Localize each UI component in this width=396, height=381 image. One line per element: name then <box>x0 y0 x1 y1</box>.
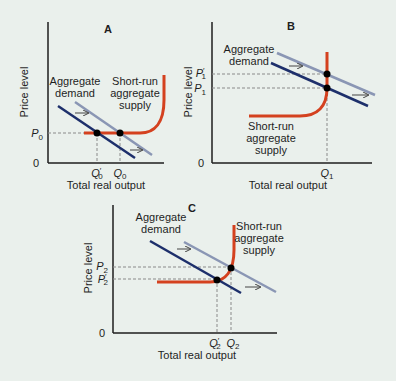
panel-c-equilibrium-new <box>214 277 221 284</box>
panel-b-q1-label: Q1 <box>320 167 334 181</box>
panel-c: C Price level Total real output 0 Aggreg… <box>82 202 284 361</box>
panel-a-ad-label-line2: demand <box>55 87 95 99</box>
panel-c-sras-label-line2: aggregate <box>234 232 284 244</box>
panel-a-sras-label-line3: supply <box>119 99 151 111</box>
panel-c-sras-label-line1: Short-run <box>236 220 282 232</box>
panel-b-sras-label-line2: aggregate <box>246 132 296 144</box>
panel-c-ad-label-line1: Aggregate <box>136 211 187 223</box>
panel-a-sras-label-line1: Short-run <box>112 75 158 87</box>
aggregate-demand-supply-diagram: A Price level Total real output 0 Aggreg… <box>0 0 396 381</box>
panel-b-p1-prime-label: P′1 <box>196 66 207 81</box>
panel-c-ad-label-line2: demand <box>141 223 181 235</box>
panel-b-x-axis-label: Total real output <box>249 179 327 191</box>
panel-a: A Price level Total real output 0 Aggreg… <box>18 22 164 191</box>
panel-b-equilibrium-original <box>324 71 331 78</box>
panel-a-title: A <box>104 23 112 35</box>
panel-c-origin-label: 0 <box>99 327 105 339</box>
panel-c-sras-label-line3: supply <box>243 244 275 256</box>
panel-a-q0-prime-label: Q′0 <box>91 166 103 181</box>
panel-b-p1-label: P1 <box>194 82 206 97</box>
panel-a-ad-label-line1: Aggregate <box>50 75 101 87</box>
panel-a-sras-label-line2: aggregate <box>110 87 160 99</box>
panel-a-equilibrium-original <box>117 130 124 137</box>
panel-b-title: B <box>287 20 295 32</box>
panel-a-p0-label: P0 <box>31 127 43 142</box>
panel-c-title: C <box>188 202 196 214</box>
panel-c-y-axis-label: Price level <box>82 243 94 294</box>
panel-b-equilibrium-new <box>324 85 331 92</box>
panel-c-q2-label: Q2 <box>226 337 240 351</box>
panel-b-ad-label-line2: demand <box>229 55 269 67</box>
panel-a-y-axis-label: Price level <box>18 67 30 118</box>
panel-c-equilibrium-original <box>228 265 235 272</box>
panel-b-origin-label: 0 <box>198 157 204 169</box>
panel-b-sras-label-line1: Short-run <box>248 120 294 132</box>
panel-a-q0-label: Q0 <box>113 167 127 181</box>
panel-b-ad-label-line1: Aggregate <box>224 43 275 55</box>
panel-a-equilibrium-new <box>94 130 101 137</box>
panel-a-origin-label: 0 <box>33 157 39 169</box>
panel-b-y-axis-label: Price level <box>182 67 194 118</box>
panel-a-x-axis-label: Total real output <box>67 179 145 191</box>
panel-b: B Price level Total real output 0 Aggreg… <box>182 20 375 191</box>
panel-b-sras-label-line3: supply <box>255 144 287 156</box>
panel-c-x-axis-label: Total real output <box>158 349 236 361</box>
panel-c-q2-prime-label: Q′2 <box>209 336 221 351</box>
